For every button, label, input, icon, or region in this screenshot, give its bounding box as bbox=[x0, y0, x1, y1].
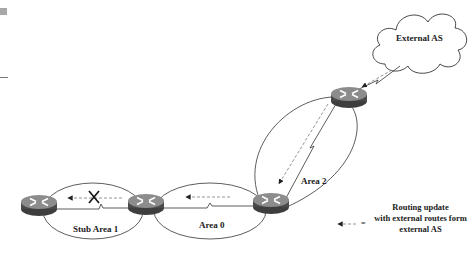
router-r1-icon bbox=[21, 195, 57, 216]
stub-area-1-label: Stub Area 1 bbox=[73, 224, 118, 234]
area-2-label: Area 2 bbox=[301, 176, 327, 186]
flow-r4-r3 bbox=[280, 104, 328, 182]
legend-line-1: Routing update bbox=[368, 202, 473, 213]
external-as-cloud bbox=[373, 14, 467, 73]
router-r3-icon bbox=[253, 193, 289, 214]
area-0-boundary bbox=[154, 183, 266, 239]
area-0-label: Area 0 bbox=[199, 220, 225, 230]
legend-line-2: with external routes form bbox=[368, 213, 473, 224]
flow-external-r4 bbox=[364, 70, 392, 86]
external-as-label: External AS bbox=[396, 33, 443, 43]
blocked-x-icon bbox=[89, 191, 99, 203]
legend-line-3: external AS bbox=[368, 224, 473, 235]
link-r3-r2 bbox=[162, 203, 255, 208]
legend-description: Routing update with external routes form… bbox=[368, 202, 473, 235]
router-r4-icon bbox=[331, 87, 367, 108]
router-r2-icon bbox=[128, 194, 164, 215]
legend-equals: = bbox=[361, 219, 366, 228]
